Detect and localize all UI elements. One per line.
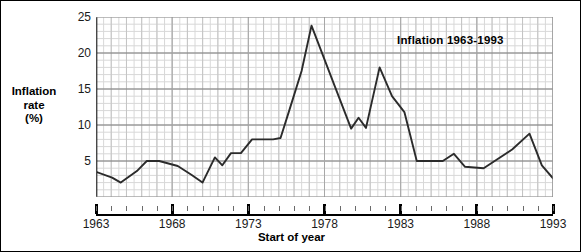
x-axis-line bbox=[96, 214, 553, 216]
x-minor-tick bbox=[340, 206, 341, 211]
x-minor-tick bbox=[309, 206, 310, 211]
x-minor-tick bbox=[446, 206, 447, 211]
x-minor-tick bbox=[370, 206, 371, 211]
x-minor-tick bbox=[218, 206, 219, 211]
x-minor-tick bbox=[172, 206, 173, 211]
chart-figure: Inflation rate (%) 252015105 19631968197… bbox=[0, 0, 581, 252]
x-tick-label-1978: 1978 bbox=[311, 217, 338, 231]
x-minor-tick bbox=[325, 206, 326, 211]
x-minor-tick bbox=[96, 206, 97, 211]
x-minor-tick bbox=[477, 206, 478, 211]
x-minor-tick bbox=[142, 206, 143, 211]
x-tick-label-1968: 1968 bbox=[159, 217, 186, 231]
x-minor-tick bbox=[355, 206, 356, 211]
x-minor-tick bbox=[462, 206, 463, 211]
x-minor-tick bbox=[294, 206, 295, 211]
x-tick-label-1988: 1988 bbox=[463, 217, 490, 231]
x-minor-tick bbox=[279, 206, 280, 211]
x-minor-tick bbox=[157, 206, 158, 211]
x-axis-title: Start of year bbox=[1, 231, 581, 243]
x-tick-label-1983: 1983 bbox=[387, 217, 414, 231]
x-minor-tick bbox=[126, 206, 127, 211]
chart-title: Inflation 1963-1993 bbox=[397, 34, 504, 46]
x-minor-tick bbox=[385, 206, 386, 211]
x-minor-tick bbox=[507, 206, 508, 211]
x-minor-tick bbox=[401, 206, 402, 211]
x-minor-tick bbox=[233, 206, 234, 211]
x-tick-label-1973: 1973 bbox=[235, 217, 262, 231]
x-minor-tick bbox=[248, 206, 249, 211]
x-minor-tick bbox=[187, 206, 188, 211]
x-tick-label-1993: 1993 bbox=[540, 217, 567, 231]
x-minor-tick bbox=[203, 206, 204, 211]
x-minor-tick bbox=[492, 206, 493, 211]
x-minor-tick bbox=[538, 206, 539, 211]
x-minor-tick bbox=[111, 206, 112, 211]
x-minor-tick bbox=[523, 206, 524, 211]
x-tick-label-1963: 1963 bbox=[83, 217, 110, 231]
x-minor-tick bbox=[431, 206, 432, 211]
x-minor-tick bbox=[416, 206, 417, 211]
x-minor-tick bbox=[264, 206, 265, 211]
x-minor-tick bbox=[553, 206, 554, 211]
